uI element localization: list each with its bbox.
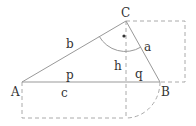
right-angle-arc (99, 36, 141, 51)
side-label-c: c (61, 86, 68, 100)
vertex-label-a: A (10, 85, 20, 99)
euclid-diagram: A B C b a c h p q (0, 0, 196, 126)
side-label-h: h (114, 59, 122, 73)
vertex-label-c: C (121, 6, 130, 20)
right-angle-dot (122, 34, 125, 37)
quarter-arc (126, 82, 160, 118)
segment-label-q: q (135, 67, 143, 81)
side-label-a: a (144, 40, 151, 54)
vertex-label-b: B (161, 85, 170, 99)
segment-label-p: p (66, 68, 74, 82)
side-label-b: b (66, 37, 74, 51)
rectangle-pc (22, 82, 126, 118)
